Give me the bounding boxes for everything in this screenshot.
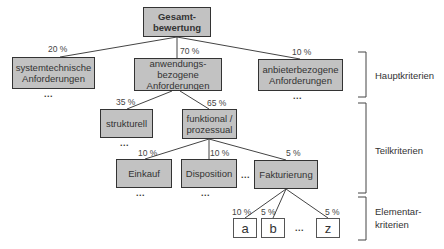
ellipsis-between-disposition-fakturierung: ...: [241, 170, 250, 180]
node-leaf-z: z: [316, 218, 340, 238]
weight-fakturierung: 5 %: [286, 148, 301, 158]
node-systemtechnische-anforderungen: systemtechnische Anforderungen: [12, 57, 95, 89]
weight-einkauf: 10 %: [138, 148, 157, 158]
weight-funktional: 65 %: [207, 98, 226, 108]
weight-anwendungsbezogen: 70 %: [180, 46, 199, 56]
level-label-hauptkriterien: Hauptkriterien: [375, 69, 434, 82]
level-label-teilkriterien: Teilkriterien: [375, 144, 423, 157]
ellipsis-disposition: ...: [201, 188, 210, 198]
node-anwendungsbezogene-anforderungen: anwendungs- bezogene Anforderungen: [134, 58, 222, 91]
ellipsis-leaves: ...: [295, 223, 304, 233]
weight-b: 5 %: [261, 207, 276, 217]
node-fakturierung: Fakturierung: [254, 160, 318, 189]
weight-systemtechnisch: 20 %: [48, 44, 67, 54]
weight-strukturell: 35 %: [116, 97, 135, 107]
level-label-elementarkriterien: Elementar- kriterien: [375, 205, 421, 231]
node-anbieterbezogene-anforderungen: anbieterbezogene Anforderungen: [258, 59, 343, 91]
ellipsis-systemtechnisch: ...: [44, 89, 53, 99]
weight-disposition: 10 %: [210, 148, 229, 158]
weight-anbieterbezogen: 10 %: [292, 47, 311, 57]
weight-z: 5 %: [325, 207, 340, 217]
ellipsis-strukturell: ...: [120, 138, 129, 148]
weight-a: 10 %: [232, 207, 251, 217]
node-leaf-b: b: [261, 218, 285, 238]
node-gesamtbewertung: Gesamt- bewertung: [143, 7, 211, 37]
node-strukturell: strukturell: [100, 109, 153, 138]
node-einkauf: Einkauf: [116, 159, 172, 188]
ellipsis-anbieterbezogen: ...: [293, 91, 302, 101]
ellipsis-einkauf: ...: [136, 188, 145, 198]
node-leaf-a: a: [233, 218, 257, 238]
node-funktional-prozessual: funktional / prozessual: [182, 109, 237, 139]
node-disposition: Disposition: [181, 159, 237, 188]
